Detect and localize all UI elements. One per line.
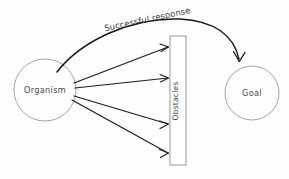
node-goal-label: Goal [242,88,262,98]
diagram-svg: Organism Goal Obstacles [0,0,289,179]
arrow-blocked-attempt-2 [75,75,169,89]
arrow-blocked-attempt-4 [72,100,169,158]
node-organism-label: Organism [24,85,66,95]
arrow-successful-response [57,19,245,72]
diagram-canvas: Organism Goal Obstacles [0,0,289,179]
arrow-blocked-attempt-1 [74,44,169,83]
arrow-blocked-attempt-3 [74,96,169,129]
node-obstacles-label: Obstacles [171,81,180,120]
